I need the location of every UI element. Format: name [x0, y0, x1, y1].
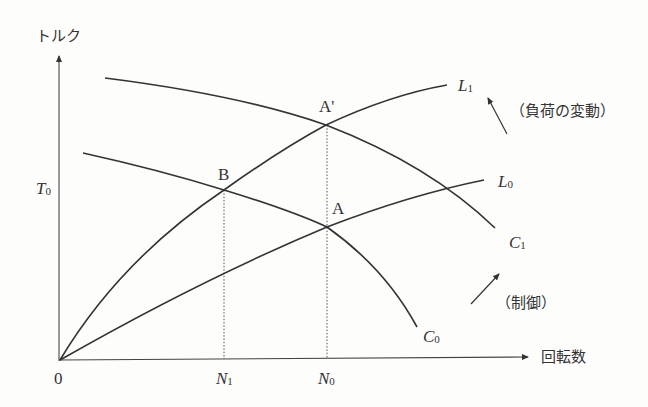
c0-label: C0	[423, 327, 440, 346]
point-a-label: A	[332, 199, 345, 218]
n1-label: N1	[215, 369, 233, 388]
point-a-prime-label: A'	[319, 97, 334, 116]
l0-label: L0	[497, 172, 513, 191]
origin-label: 0	[54, 369, 63, 388]
x-axis-label: 回転数	[541, 348, 586, 366]
curve-c0	[83, 153, 417, 327]
torque-speed-diagram: トルク 回転数 0 T0 N1 N0 L1 L0 C1 C0 B A A' （負…	[0, 0, 648, 407]
x-axis	[59, 357, 528, 360]
n0-label: N0	[317, 369, 335, 388]
curve-l1	[60, 85, 447, 360]
t0-label: T0	[36, 179, 51, 198]
l1-label: L1	[457, 76, 473, 95]
load-change-label: （負荷の変動）	[510, 102, 615, 120]
c1-label: C1	[509, 233, 526, 252]
control-arrow	[471, 274, 499, 304]
curve-l0	[60, 180, 484, 360]
load-change-arrow	[488, 98, 507, 134]
curve-c1	[105, 78, 495, 228]
control-label: （制御）	[496, 294, 556, 312]
point-b-label: B	[218, 165, 229, 184]
y-axis-label: トルク	[36, 27, 81, 45]
